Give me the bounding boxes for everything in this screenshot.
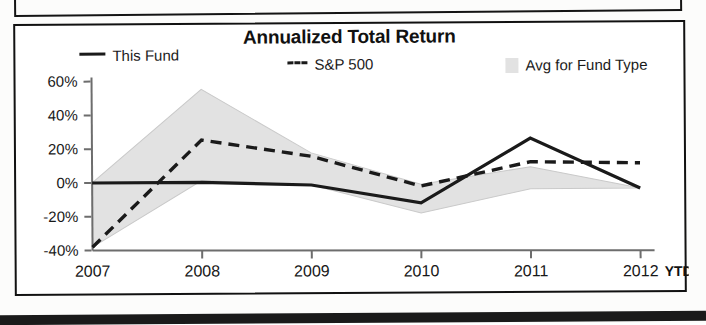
- x-axis-ytd-label: YTD: [665, 263, 689, 279]
- y-tick-label: 20%: [48, 140, 78, 157]
- y-tick-label: 0%: [56, 174, 78, 191]
- adjacent-panel-edge: [14, 0, 682, 17]
- x-tick-label: 2008: [184, 262, 220, 279]
- y-tick-label: -20%: [43, 208, 78, 225]
- y-tick-label: -40%: [43, 242, 78, 259]
- chart-panel: Annualized Total Return This Fund S&P 50…: [13, 20, 687, 296]
- x-tick-label: 2012: [623, 262, 659, 279]
- plot-area: 60%40%20%0%-20%-40%200720082009201020112…: [15, 22, 689, 298]
- y-axis-line: [92, 78, 93, 251]
- page-footer-bar: [0, 311, 706, 325]
- chart-svg: 60%40%20%0%-20%-40%200720082009201020112…: [15, 22, 689, 298]
- x-tick-label: 2010: [404, 262, 440, 279]
- y-tick-label: 40%: [48, 106, 78, 123]
- x-tick-label: 2009: [294, 262, 330, 279]
- x-tick-label: 2011: [514, 262, 549, 279]
- x-tick-label: 2007: [75, 262, 111, 279]
- x-axis-line: [93, 247, 655, 253]
- y-tick-label: 60%: [47, 73, 77, 90]
